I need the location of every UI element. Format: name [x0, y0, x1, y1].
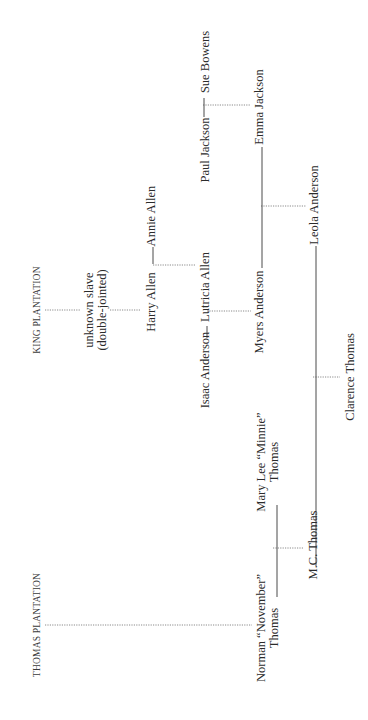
person-unknown-slave: unknown slave (double-jointed): [83, 269, 109, 350]
person-mary-lee-thomas: Mary Lee “Minnie” Thomas: [255, 412, 281, 511]
person-sue-bowens: Sue Bowens: [199, 31, 212, 93]
person-isaac-anderson: Isaac Anderson: [199, 332, 212, 409]
person-mc-thomas: M.C. Thomas: [307, 511, 320, 580]
connector-lines: [0, 0, 368, 720]
person-leola-anderson: Leola Anderson: [308, 165, 321, 245]
king-plantation-label: KING PLANTATION: [31, 266, 44, 353]
person-mary-lee-line2: Thomas: [268, 412, 281, 511]
person-norman-thomas: Norman “November” Thomas: [255, 574, 281, 682]
person-myers-anderson: Myers Anderson: [253, 271, 266, 354]
person-norman-line2: Thomas: [268, 574, 281, 682]
person-lutricia-allen: Lutricia Allen: [199, 252, 212, 322]
person-paul-jackson: Paul Jackson: [199, 118, 212, 183]
person-unknown-slave-line2: (double-jointed): [96, 269, 109, 350]
person-annie-allen: Annie Allen: [145, 186, 158, 247]
family-tree-diagram: KING PLANTATION THOMAS PLANTATION unknow…: [0, 0, 368, 720]
person-emma-jackson: Emma Jackson: [253, 69, 266, 144]
person-harry-allen: Harry Allen: [145, 272, 158, 331]
person-clarence-thomas: Clarence Thomas: [344, 333, 357, 421]
thomas-plantation-label: THOMAS PLANTATION: [31, 573, 44, 677]
